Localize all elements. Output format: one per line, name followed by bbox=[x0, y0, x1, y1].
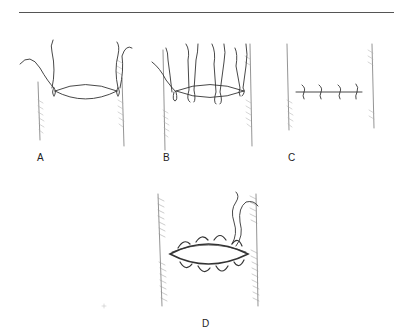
panel-d-running-suture bbox=[170, 244, 248, 264]
panel-a-incision-top bbox=[55, 85, 117, 92]
panel-a-drawing bbox=[20, 40, 132, 146]
panel-d-hatching bbox=[158, 196, 259, 301]
panel-a-wall-right bbox=[122, 78, 124, 146]
panel-b-drawing bbox=[152, 44, 252, 150]
panel-a-suture-right bbox=[117, 88, 120, 96]
panel-label-c: C bbox=[288, 152, 295, 163]
panel-a-suture-left bbox=[53, 88, 56, 96]
panel-c-drawing bbox=[287, 44, 374, 130]
panel-d-wall-right bbox=[256, 194, 258, 306]
panel-b-hatching bbox=[163, 56, 251, 137]
panel-c-wall-right bbox=[372, 44, 374, 128]
panel-b-wall-left bbox=[163, 50, 165, 150]
panel-c-stitch bbox=[356, 84, 358, 99]
panel-a-wall-left bbox=[38, 82, 40, 140]
panel-d-drawing bbox=[158, 192, 259, 306]
panel-c-wall-left bbox=[287, 44, 289, 130]
panel-d-loops bbox=[178, 236, 244, 272]
panel-b-incision-top bbox=[176, 85, 244, 92]
panel-a-hatching bbox=[38, 60, 124, 133]
panel-b-wall-right bbox=[250, 44, 252, 146]
panel-label-a: A bbox=[37, 152, 44, 163]
stray-mark bbox=[102, 304, 106, 308]
panel-c-hatching bbox=[287, 50, 374, 127]
panel-label-d: D bbox=[202, 318, 209, 329]
panel-label-b: B bbox=[163, 152, 170, 163]
suture-illustration bbox=[0, 0, 394, 334]
